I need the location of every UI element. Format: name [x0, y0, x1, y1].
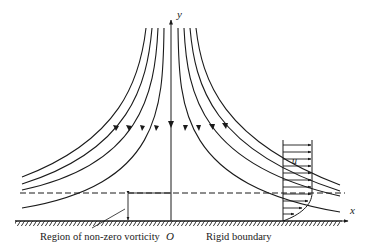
origin-label: O: [166, 230, 174, 242]
x-axis-label: x: [349, 204, 355, 216]
streamlines-left: [22, 28, 164, 208]
stagnation-flow-diagram: y x O u Region of non-zero vorticity Rig…: [0, 0, 366, 249]
axis-flow-arrow-icon: [168, 121, 174, 128]
boundary-label: Rigid boundary: [206, 231, 272, 242]
rigid-boundary: [15, 221, 342, 226]
region-label: Region of non-zero vorticity: [40, 231, 161, 242]
boundary-layer-thickness-arrow: [128, 193, 171, 220]
y-axis-label: y: [176, 8, 182, 20]
streamlines-right: [178, 28, 340, 212]
velocity-label: u: [292, 155, 297, 166]
